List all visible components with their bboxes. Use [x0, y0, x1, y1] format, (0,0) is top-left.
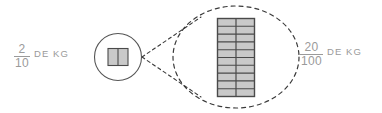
- source-bar-grid: [108, 49, 128, 66]
- magnifier-connector-lines: [142, 17, 201, 97]
- magnified-grid: [218, 19, 255, 97]
- diagram-artwork: [0, 0, 382, 113]
- diagram-canvas: 2 10 DE KG 20 100 DE KG: [0, 0, 382, 113]
